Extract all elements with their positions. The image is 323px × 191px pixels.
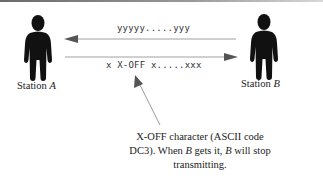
annotation-line-2-a: DC3). When bbox=[129, 145, 185, 156]
top-stream-text: yyyyy.....yyy bbox=[117, 23, 190, 33]
station-a-label-prefix: Station bbox=[17, 80, 49, 91]
annotation-line-2-b: gets it, bbox=[192, 145, 225, 156]
station-a-label: Station A bbox=[17, 80, 56, 91]
annotation-line-2-c: will stop bbox=[232, 145, 271, 156]
top-arrow-left bbox=[64, 35, 236, 43]
station-b-label-var: B bbox=[273, 78, 279, 89]
xoff-annotation: X-OFF character (ASCII code DC3). When B… bbox=[125, 130, 275, 172]
station-a-label-var: A bbox=[49, 80, 55, 91]
station-b-label: Station B bbox=[241, 78, 280, 89]
annotation-line-3: transmitting. bbox=[125, 158, 275, 172]
station-b-label-prefix: Station bbox=[241, 78, 273, 89]
annotation-line-2: DC3). When B gets it, B will stop bbox=[125, 144, 275, 158]
annotation-pointer-arrow bbox=[134, 75, 160, 125]
bottom-stream-text: x X-OFF x.....xxx bbox=[106, 60, 202, 70]
annotation-line-1: X-OFF character (ASCII code bbox=[125, 130, 275, 144]
